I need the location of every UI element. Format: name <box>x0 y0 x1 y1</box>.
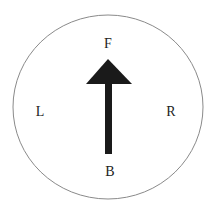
forward-arrow-icon <box>86 59 132 154</box>
label-right: R <box>166 104 176 119</box>
label-back: B <box>105 164 114 179</box>
label-front: F <box>104 36 112 51</box>
label-left: L <box>36 104 45 119</box>
arrow-shaft <box>105 80 112 154</box>
direction-diagram: F B L R <box>0 0 213 209</box>
